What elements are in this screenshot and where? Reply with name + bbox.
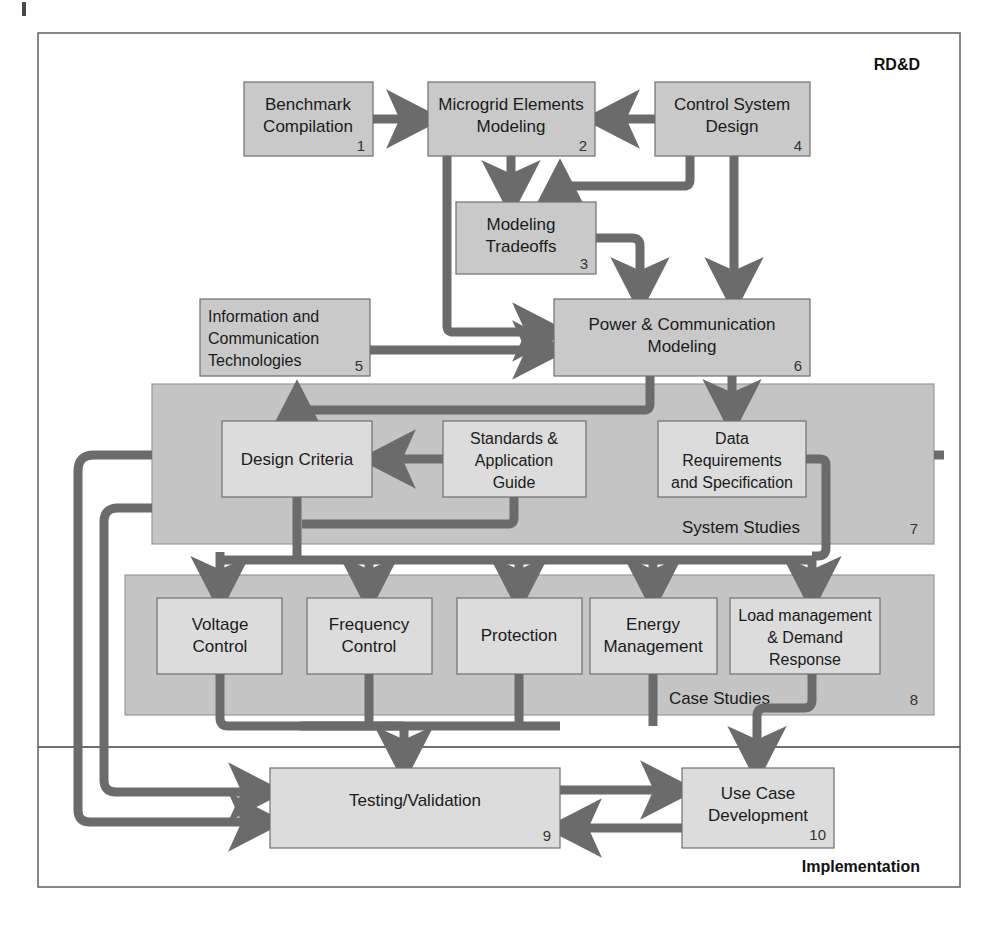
node-power-communication-modeling[interactable]: Power & Communication Modeling 6 [554, 299, 810, 376]
information-communication-technologies-line-1: Information and [208, 308, 319, 325]
data-requirements-specification-line-1: Data [715, 430, 749, 447]
benchmark-compilation-line-2: Compilation [263, 117, 353, 136]
node-benchmark-compilation[interactable]: Benchmark Compilation 1 [244, 82, 373, 156]
flowchart-diagram: RD&D Implementation System Studies 7 Cas… [0, 0, 996, 925]
load-management-demand-response-line-1: Load management [738, 607, 872, 624]
data-requirements-specification-line-3: and Specification [671, 474, 793, 491]
node-voltage-control[interactable]: Voltage Control [157, 598, 282, 674]
connector-tradeoffs-to-power-modeling [596, 238, 640, 285]
data-requirements-specification-line-2: Requirements [682, 452, 782, 469]
load-management-demand-response-line-2: & Demand [767, 629, 843, 646]
load-management-demand-response-line-3: Response [769, 651, 841, 668]
control-system-design-line-1: Control System [674, 95, 790, 114]
node-standards-application-guide[interactable]: Standards & Application Guide [443, 421, 586, 497]
energy-management-line-1: Energy [626, 615, 680, 634]
system-studies-label: System Studies [682, 518, 800, 537]
control-system-design-number: 4 [794, 137, 802, 154]
standards-application-guide-line-3: Guide [493, 474, 536, 491]
energy-management-box[interactable] [590, 598, 717, 674]
node-testing-validation[interactable]: Testing/Validation 9 [270, 768, 560, 848]
modeling-tradeoffs-line-1: Modeling [487, 215, 556, 234]
testing-validation-line-1: Testing/Validation [349, 791, 481, 810]
voltage-control-line-1: Voltage [192, 615, 249, 634]
voltage-control-box[interactable] [157, 598, 282, 674]
information-communication-technologies-line-2: Communication [208, 330, 319, 347]
standards-application-guide-line-2: Application [475, 452, 553, 469]
flowchart-canvas: RD&D Implementation System Studies 7 Cas… [0, 0, 996, 925]
energy-management-line-2: Management [603, 637, 703, 656]
modeling-tradeoffs-number: 3 [580, 255, 588, 272]
power-communication-modeling-line-2: Modeling [648, 337, 717, 356]
benchmark-compilation-number: 1 [357, 137, 365, 154]
node-microgrid-elements-modeling[interactable]: Microgrid Elements Modeling 2 [428, 82, 595, 156]
standards-application-guide-line-1: Standards & [470, 430, 558, 447]
use-case-development-number: 10 [809, 826, 826, 843]
node-modeling-tradeoffs[interactable]: Modeling Tradeoffs 3 [456, 202, 596, 274]
voltage-control-line-2: Control [193, 637, 248, 656]
node-energy-management[interactable]: Energy Management [590, 598, 717, 674]
information-communication-technologies-number: 5 [355, 357, 363, 374]
node-load-management-demand-response[interactable]: Load management & Demand Response [730, 598, 880, 674]
connector-control-to-tradeoffs [560, 156, 690, 192]
protection-line-1: Protection [481, 626, 558, 645]
benchmark-compilation-line-1: Benchmark [265, 95, 351, 114]
node-design-criteria[interactable]: Design Criteria [222, 421, 372, 497]
microgrid-elements-modeling-line-1: Microgrid Elements [438, 95, 584, 114]
system-studies-number: 7 [910, 520, 918, 537]
microgrid-elements-modeling-number: 2 [579, 137, 587, 154]
case-studies-label: Case Studies [669, 689, 770, 708]
control-system-design-line-2: Design [706, 117, 759, 136]
case-studies-number: 8 [910, 691, 918, 708]
microgrid-elements-modeling-line-2: Modeling [477, 117, 546, 136]
use-case-development-line-1: Use Case [721, 784, 796, 803]
node-data-requirements-specification[interactable]: Data Requirements and Specification [658, 421, 806, 497]
node-information-communication-technologies[interactable]: Information and Communication Technologi… [200, 299, 370, 376]
rdd-frame-label: RD&D [874, 56, 920, 73]
information-communication-technologies-line-3: Technologies [208, 352, 301, 369]
page-margin-tick [22, 2, 26, 16]
power-communication-modeling-number: 6 [794, 357, 802, 374]
node-frequency-control[interactable]: Frequency Control [307, 598, 432, 674]
frequency-control-box[interactable] [307, 598, 432, 674]
implementation-frame-label: Implementation [802, 858, 920, 875]
node-protection[interactable]: Protection [457, 598, 582, 674]
testing-validation-number: 9 [543, 827, 551, 844]
use-case-development-line-2: Development [708, 806, 808, 825]
node-use-case-development[interactable]: Use Case Development 10 [682, 768, 834, 848]
frequency-control-line-1: Frequency [329, 615, 410, 634]
node-control-system-design[interactable]: Control System Design 4 [655, 82, 810, 156]
frequency-control-line-2: Control [342, 637, 397, 656]
design-criteria-line-1: Design Criteria [241, 450, 354, 469]
power-communication-modeling-line-1: Power & Communication [588, 315, 775, 334]
modeling-tradeoffs-line-2: Tradeoffs [486, 237, 557, 256]
